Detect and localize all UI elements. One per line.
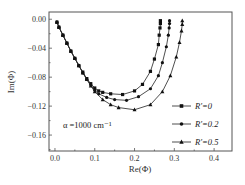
data-series	[55, 18, 184, 111]
plot-frame	[49, 12, 232, 151]
legend-item: R′=0	[172, 101, 213, 111]
series-square	[55, 19, 162, 96]
y-tick-label: −0.12	[27, 102, 46, 111]
y-tick-label: 0.00	[32, 15, 46, 24]
legend-label: R′=0.2	[194, 119, 219, 129]
x-tick-label: 0.4	[209, 154, 219, 163]
y-tick-label: −0.08	[27, 73, 46, 82]
y-axis: 0.00−0.04−0.08−0.12−0.16	[27, 15, 52, 149]
x-tick-label: 0.0	[50, 154, 60, 163]
legend-label: R′=0.5	[194, 137, 218, 147]
legend-item: R′=0.2	[172, 119, 219, 129]
legend-item: R′=0.5	[172, 137, 218, 147]
x-tick-label: 0.1	[90, 154, 100, 163]
x-tick-label: 0.3	[169, 154, 179, 163]
legend: R′=0R′=0.2R′=0.5	[172, 101, 219, 147]
x-axis-label: Re(Φ)	[129, 164, 152, 174]
y-tick-label: −0.04	[27, 44, 46, 53]
legend-label: R′=0	[194, 101, 213, 111]
y-axis-label: Im(Φ)	[6, 71, 16, 94]
alpha-annotation: α =1000 cm⁻¹	[63, 120, 112, 130]
chart: 0.00.10.20.30.4 0.00−0.04−0.08−0.12−0.16…	[0, 0, 245, 185]
series-triangle	[55, 18, 184, 111]
y-tick-label: −0.16	[27, 131, 46, 140]
x-axis: 0.00.10.20.30.4	[50, 148, 219, 163]
x-tick-label: 0.2	[130, 154, 140, 163]
